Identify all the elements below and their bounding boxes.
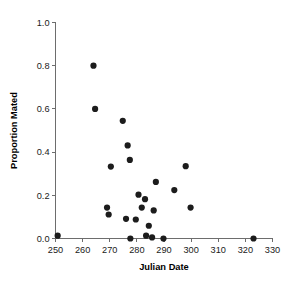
- data-point: [149, 234, 155, 240]
- data-point: [108, 163, 114, 169]
- data-point: [135, 192, 141, 198]
- scatter-plot-figure: 0.00.20.40.60.81.0 250260270280290300310…: [0, 0, 286, 282]
- x-tick-label: 330: [265, 245, 280, 255]
- data-point: [120, 118, 126, 124]
- x-tick-label: 310: [211, 245, 226, 255]
- data-point: [171, 187, 177, 193]
- y-tick-label: 0.2: [37, 191, 50, 201]
- data-point: [127, 235, 133, 241]
- x-tick-label: 320: [238, 245, 253, 255]
- data-point: [125, 142, 131, 148]
- y-axis-title: Proportion Mated: [9, 92, 19, 169]
- x-tick-label: 270: [102, 245, 117, 255]
- data-point: [123, 216, 129, 222]
- data-point: [183, 163, 189, 169]
- y-tick-label: 0.0: [37, 234, 50, 244]
- x-tick-label: 290: [156, 245, 171, 255]
- x-tick-label: 250: [48, 245, 63, 255]
- data-point: [55, 233, 61, 239]
- x-tick-label: 260: [75, 245, 90, 255]
- data-point: [92, 106, 98, 112]
- y-tick-label: 0.8: [37, 61, 50, 71]
- data-points-group: [55, 63, 257, 242]
- x-axis-title: Julian Date: [139, 262, 189, 272]
- y-axis-ticks: 0.00.20.40.60.81.0: [37, 18, 56, 244]
- x-tick-label: 300: [183, 245, 198, 255]
- y-tick-label: 0.6: [37, 104, 50, 114]
- data-point: [133, 216, 139, 222]
- chart-canvas: 0.00.20.40.60.81.0 250260270280290300310…: [0, 0, 286, 282]
- axis-frame: [56, 23, 273, 239]
- data-point: [250, 235, 256, 241]
- data-point: [106, 211, 112, 217]
- data-point: [143, 233, 149, 239]
- data-point: [160, 235, 166, 241]
- data-point: [151, 207, 157, 213]
- y-tick-label: 1.0: [37, 18, 50, 28]
- data-point: [139, 205, 145, 211]
- data-point: [104, 205, 110, 211]
- data-point: [127, 157, 133, 163]
- data-point: [90, 63, 96, 69]
- y-tick-label: 0.4: [37, 147, 50, 157]
- data-point: [153, 179, 159, 185]
- data-point: [142, 196, 148, 202]
- x-tick-label: 280: [129, 245, 144, 255]
- data-point: [146, 223, 152, 229]
- data-point: [187, 205, 193, 211]
